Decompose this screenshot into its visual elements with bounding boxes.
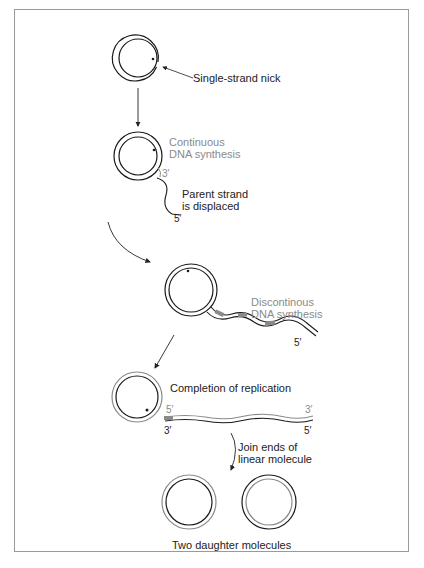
label-parent-2: is displaced [182, 200, 239, 212]
label-linear-5-right: 5′ [304, 425, 311, 437]
daughter-molecule-right [242, 475, 296, 529]
label-parent-1: Parent strand [182, 188, 248, 200]
label-continuous-1: Continuous [169, 136, 225, 148]
label-join-2: linear molecule [238, 453, 312, 465]
step-arrow-2 [108, 222, 150, 262]
label-linear-5-left: 5′ [166, 404, 173, 416]
label-linear-3-right: 3′ [305, 404, 312, 416]
step4-circle [112, 372, 162, 422]
linear-molecule [164, 414, 313, 423]
step1-circle [112, 35, 193, 81]
label-join-1: Join ends of [238, 441, 297, 453]
label-discontinuous-2: DNA synthesis [251, 308, 323, 320]
nick-pointer-arrow [163, 67, 193, 78]
label-nick: Single-strand nick [193, 72, 280, 84]
label-continuous-2: DNA synthesis [169, 148, 241, 160]
label-5prime-a: 5′ [174, 213, 181, 225]
step-arrow-3 [155, 335, 174, 368]
label-daughters: Two daughter molecules [172, 539, 291, 551]
displaced-parent-strand [157, 178, 180, 215]
label-5prime-b: 5′ [294, 337, 301, 349]
rolling-circle-diagram [0, 0, 424, 568]
step-arrow-4 [231, 433, 236, 470]
label-linear-3-left: 3′ [164, 425, 171, 437]
daughter-molecule-left [162, 475, 216, 529]
label-completion: Completion of replication [170, 382, 291, 394]
label-3prime-a: 3′ [162, 168, 169, 180]
label-discontinuous-1: Discontinous [251, 296, 314, 308]
